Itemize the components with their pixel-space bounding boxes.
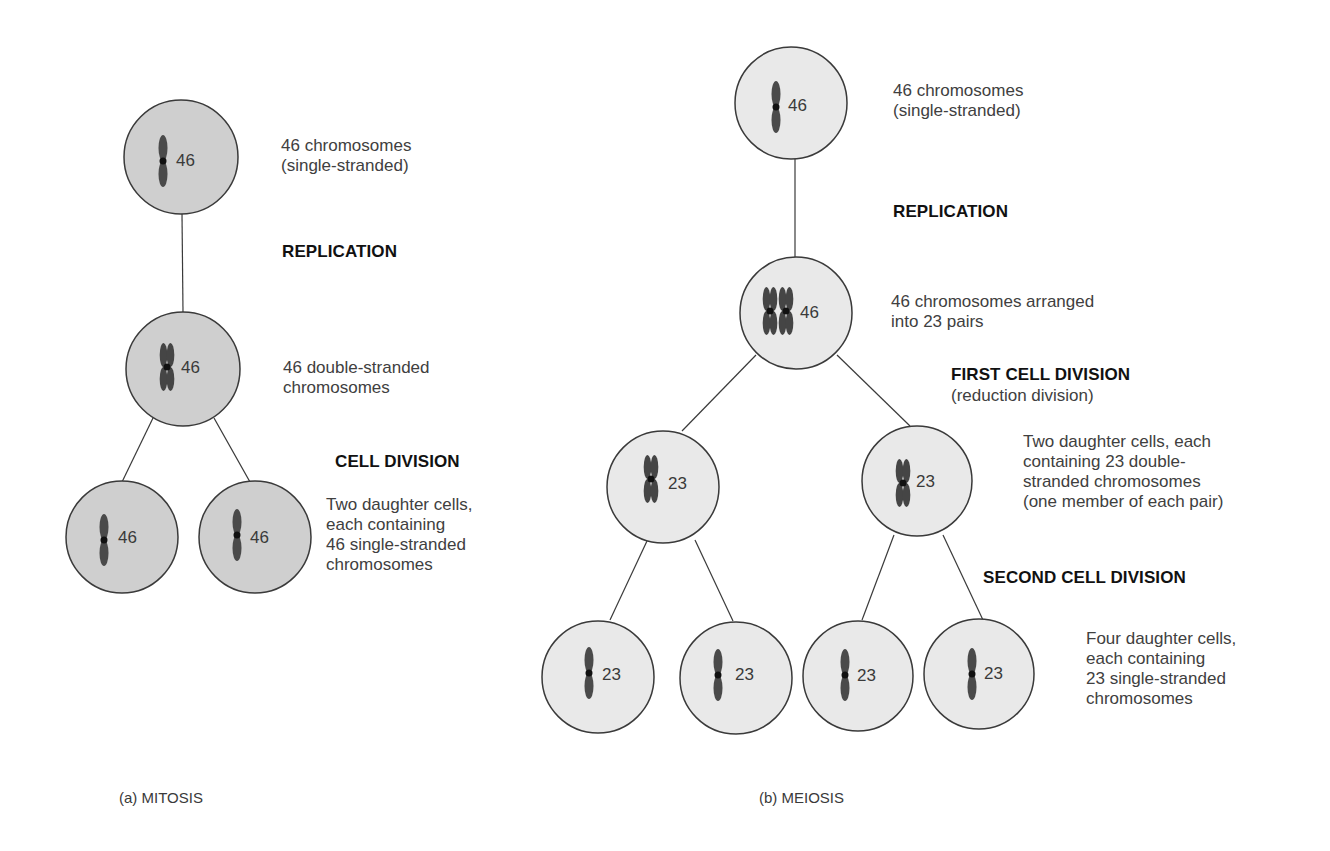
chromosome-count: 23 bbox=[735, 665, 754, 684]
meiosis-second-daughter-cell-2: 23 bbox=[680, 622, 792, 734]
mitosis-daughter-description: Two daughter cells, each containing 46 s… bbox=[326, 495, 472, 575]
meiosis-connectors bbox=[610, 159, 983, 621]
meiosis-two-daughter-description: Two daughter cells, each containing 23 d… bbox=[1023, 432, 1223, 512]
mitosis-caption: (a) MITOSIS bbox=[119, 789, 203, 806]
mitosis-cell-parent: 46 bbox=[124, 100, 238, 214]
meiosis-second-daughter-cell-1: 23 bbox=[542, 621, 654, 733]
meiosis-first-division-label: FIRST CELL DIVISION bbox=[951, 365, 1130, 385]
chromosome-count: 46 bbox=[788, 96, 807, 115]
chromosome-count: 46 bbox=[800, 303, 819, 322]
meiosis-four-daughter-description: Four daughter cells, each containing 23 … bbox=[1086, 629, 1236, 709]
meiosis-second-daughter-cell-3: 23 bbox=[803, 621, 913, 731]
mitosis-cell-replicated: 46 bbox=[126, 312, 240, 426]
meiosis-replication-label: REPLICATION bbox=[893, 202, 1008, 222]
meiosis-first-daughter-cell-2: 23 bbox=[862, 426, 972, 536]
chromosome-count: 23 bbox=[984, 664, 1003, 683]
mitosis-daughter-cell-1: 46 bbox=[66, 481, 178, 593]
mitosis-daughter-cell-2: 46 bbox=[199, 481, 311, 593]
mitosis-middle-description: 46 double-stranded chromosomes bbox=[283, 358, 430, 398]
chromosome-count: 23 bbox=[602, 665, 621, 684]
chromosome-count: 23 bbox=[668, 474, 687, 493]
meiosis-second-division-label: SECOND CELL DIVISION bbox=[983, 568, 1186, 588]
mitosis-replication-label: REPLICATION bbox=[282, 242, 397, 262]
meiosis-first-division-subtitle: (reduction division) bbox=[951, 386, 1094, 406]
meiosis-second-daughter-cell-4: 23 bbox=[924, 619, 1034, 729]
meiosis-top-description: 46 chromosomes (single-stranded) bbox=[893, 81, 1023, 121]
meiosis-cell-parent: 46 bbox=[735, 47, 847, 159]
cell-division-diagram: 46 46 46 46 46 46 23 bbox=[0, 0, 1330, 851]
chromosome-count: 46 bbox=[250, 528, 269, 547]
meiosis-caption: (b) MEIOSIS bbox=[759, 789, 844, 806]
mitosis-cell-division-label: CELL DIVISION bbox=[335, 452, 460, 472]
chromosome-count: 46 bbox=[181, 358, 200, 377]
chromosome-count: 46 bbox=[118, 528, 137, 547]
chromosome-count: 23 bbox=[857, 666, 876, 685]
chromosome-count: 46 bbox=[176, 151, 195, 170]
chromosome-count: 23 bbox=[916, 472, 935, 491]
mitosis-top-description: 46 chromosomes (single-stranded) bbox=[281, 136, 411, 176]
meiosis-first-daughter-cell-1: 23 bbox=[607, 431, 719, 543]
meiosis-cell-paired: 46 bbox=[740, 257, 852, 369]
meiosis-paired-description: 46 chromosomes arranged into 23 pairs bbox=[891, 292, 1094, 332]
